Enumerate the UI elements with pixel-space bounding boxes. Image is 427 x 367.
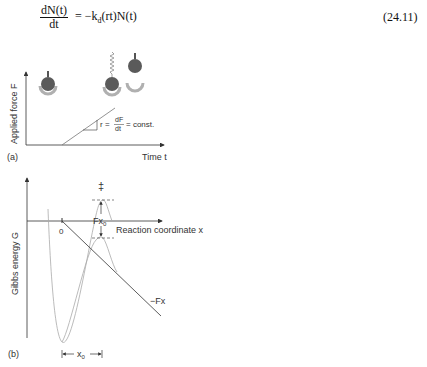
tilt-label: −Fx [150, 296, 166, 306]
y-axis-label-b: Gibbs energy G [10, 232, 20, 295]
slope-lhs: r = [100, 120, 110, 129]
x-axis-label-a: Time t [142, 152, 167, 162]
slope-num: dF [115, 116, 123, 123]
tilt-line [62, 221, 161, 316]
stretched-bead-with-spring-icon [104, 52, 120, 95]
detached-bead-icon [128, 53, 142, 73]
origin-label: 0 [59, 227, 64, 236]
panel-b: ‡ Fx0 Reaction coordinate x 0 −Fx Gibbs … [8, 178, 204, 360]
panel-a: r = dF dt = const. Applied force F Time … [7, 52, 167, 162]
y-axis-label-a: Applied force F [9, 83, 19, 144]
slope-den: dt [115, 125, 121, 132]
energy-curve-tilted [62, 237, 117, 342]
bead-in-cup-icon [40, 71, 56, 94]
figure: r = dF dt = const. Applied force F Time … [0, 0, 427, 367]
panel-a-label: (a) [7, 152, 18, 162]
panel-b-label: (b) [8, 349, 19, 359]
empty-cup-icon [127, 83, 143, 91]
barrier-shift-label: Fx0 [93, 216, 107, 227]
x-axis-label-b: Reaction coordinate x [116, 225, 204, 235]
slope-rhs: = const. [126, 120, 154, 129]
distance-label: x0 [77, 349, 86, 360]
distance-x0-marker: x0 [62, 349, 102, 360]
transition-state-symbol: ‡ [98, 180, 104, 192]
